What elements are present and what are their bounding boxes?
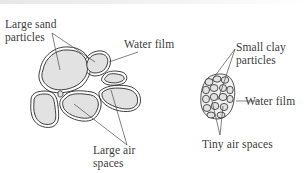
label-small-clay-particles-line1: Small clay (236, 41, 286, 53)
sand-particle-cluster (31, 47, 141, 128)
label-small-clay-particles-line2: particles (236, 54, 276, 66)
label-water-film-left: Water film (124, 38, 174, 50)
label-large-air-spaces-line1: Large air (93, 144, 136, 156)
clay-particle-cluster (201, 74, 235, 119)
label-tiny-air-spaces: Tiny air spaces (202, 138, 273, 150)
label-large-air-spaces-line2: spaces (93, 157, 124, 169)
label-large-sand-particles-line2: particles (5, 31, 45, 43)
label-water-film-right: Water film (245, 95, 295, 107)
label-large-sand-particles-line1: Large sand (5, 18, 57, 30)
